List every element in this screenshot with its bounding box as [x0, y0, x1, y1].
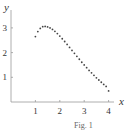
data-point [64, 41, 66, 43]
data-points [35, 26, 110, 92]
data-point [86, 67, 88, 69]
data-point [61, 38, 63, 40]
data-point [96, 77, 98, 79]
data-point [74, 52, 76, 54]
data-point [44, 26, 46, 28]
y-tick-label: 2 [3, 48, 8, 58]
data-point [52, 28, 54, 30]
data-point [98, 79, 100, 81]
data-point [42, 26, 44, 28]
data-point [66, 44, 68, 46]
data-point [76, 55, 78, 57]
data-point [91, 72, 93, 74]
data-point [103, 84, 105, 86]
data-point [39, 27, 41, 29]
x-tick-label: 1 [33, 106, 38, 116]
y-axis-label: y [3, 1, 9, 13]
x-tick-label: 4 [106, 106, 111, 116]
data-point [93, 74, 95, 76]
data-point [100, 81, 102, 83]
y-tick-label: 1 [3, 72, 8, 82]
data-point [71, 49, 73, 51]
y-tick-label: 3 [3, 23, 8, 33]
data-point [49, 27, 51, 29]
figure-caption: Fig. 1 [74, 121, 93, 130]
data-point [88, 69, 90, 71]
data-point [59, 35, 61, 37]
data-point [78, 58, 80, 60]
x-tick-label: 3 [82, 106, 87, 116]
data-point [105, 86, 107, 88]
x-axis-label: x [118, 95, 124, 107]
data-point [69, 47, 71, 49]
data-point [35, 36, 37, 38]
data-point [54, 30, 56, 32]
x-tick-label: 2 [58, 106, 63, 116]
data-point [83, 64, 85, 66]
chart: 1234123 y x [0, 0, 129, 130]
data-point [56, 33, 58, 35]
data-point [108, 90, 110, 92]
data-point [81, 61, 83, 63]
data-point [47, 26, 49, 28]
data-point [37, 31, 39, 33]
